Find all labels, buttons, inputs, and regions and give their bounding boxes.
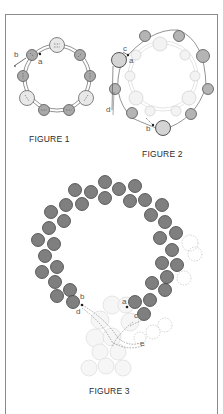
figure-2-caption: FIGURE 2 xyxy=(142,149,183,159)
figure-3-label-e: e xyxy=(140,339,145,348)
figure-2-label-a: a xyxy=(129,56,134,65)
figure-1-label-a: a xyxy=(38,57,43,66)
figure-3-label-b: b xyxy=(80,292,85,301)
figure-3-caption: FIGURE 3 xyxy=(89,386,130,396)
figure-2-label-c: c xyxy=(123,44,127,53)
figure-3-label-a: a xyxy=(122,297,127,306)
figure-3-label-c: c xyxy=(134,311,138,320)
figure-1-caption: FIGURE 1 xyxy=(29,134,70,144)
figure-3-ring: b d a c e xyxy=(32,176,203,377)
figure-1-ring: b a xyxy=(14,38,96,116)
figure-2-ring: c a d b xyxy=(106,30,214,136)
figure-2-label-b: b xyxy=(146,124,151,133)
figure-2-label-d: d xyxy=(106,105,110,114)
figure-3-label-d: d xyxy=(76,307,80,316)
figure-1-label-b: b xyxy=(14,50,19,59)
